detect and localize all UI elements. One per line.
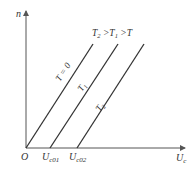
series-line-t2	[77, 44, 144, 148]
tick-label-uc01: Uc01	[42, 151, 59, 164]
temperature-order-annotation: T2 >T1 >T	[92, 28, 133, 39]
chart-svg: n O Uc01 Uc02 Uc T = 0 T1 T2 T2 >T1 >T	[0, 0, 196, 172]
y-axis-label: n	[16, 8, 21, 19]
origin-label: O	[21, 151, 28, 162]
tick-label-uc02: Uc02	[69, 151, 87, 164]
x-axis-label: Uc	[176, 152, 187, 165]
series-label-t2: T2	[93, 101, 107, 114]
